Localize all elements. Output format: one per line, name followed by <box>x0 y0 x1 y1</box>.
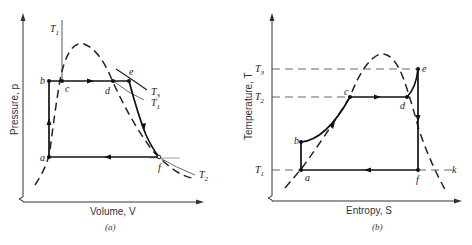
point-f-label: f <box>416 175 419 185</box>
x-axis-arrow-icon <box>196 200 204 205</box>
point-d-label: d <box>400 101 405 111</box>
arrow-left-icon <box>364 168 371 173</box>
label-t1-top: T1 <box>50 24 59 38</box>
pv-diagram-panel: T1 T3 T1 T2 a b c d e f Pressure, p Volu… <box>0 0 236 245</box>
arrow-up-icon <box>47 118 52 125</box>
label-t1: T1 <box>151 98 160 112</box>
x-axis-label: Volume, V <box>90 206 136 217</box>
arrow-right-icon <box>374 95 381 100</box>
y-axis-arrow-icon <box>270 13 275 21</box>
arrow-down-icon <box>141 123 146 131</box>
arrow-right-icon <box>87 79 94 84</box>
point-b-label: b <box>294 136 299 146</box>
point-f-label: f <box>158 163 161 173</box>
point-k-label: k <box>452 165 456 175</box>
point-a-label: a <box>40 153 45 163</box>
saturation-dome <box>35 44 192 185</box>
panel-caption: (b) <box>372 222 383 232</box>
arrow-down-icon <box>416 115 421 122</box>
point-b-label: b <box>40 76 45 86</box>
x-axis-arrow-icon <box>454 199 462 204</box>
point-c-label: c <box>344 87 348 97</box>
label-t3: T3 <box>255 64 264 78</box>
point-e-label: e <box>129 67 133 77</box>
cycle-path <box>301 69 418 170</box>
point-d-label: d <box>105 86 110 96</box>
temperature-guides <box>272 69 454 170</box>
ts-diagram-panel: T3 T2 T1 a b c d e f k Temperature, T En… <box>236 0 472 245</box>
label-t2: T2 <box>199 170 208 184</box>
label-t1: T1 <box>255 165 264 179</box>
y-axis-label: Temperature, T <box>243 72 254 140</box>
y-axis-label: Pressure, p <box>9 84 20 135</box>
label-t2: T2 <box>255 92 264 106</box>
y-axis-arrow-icon <box>21 13 26 21</box>
axes <box>19 18 200 202</box>
point-c-label: c <box>65 84 69 94</box>
x-axis-label: Entropy, S <box>346 205 392 216</box>
arrow-left-icon <box>104 155 111 160</box>
panel-caption: (a) <box>105 222 116 232</box>
point-e-label: e <box>422 64 426 74</box>
point-a-label: a <box>305 173 310 183</box>
